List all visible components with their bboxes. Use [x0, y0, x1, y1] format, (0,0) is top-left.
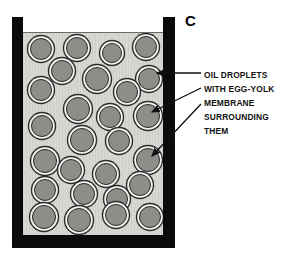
droplet-core	[33, 117, 51, 135]
beaker-wall-right	[163, 17, 175, 248]
oil-droplet	[136, 104, 160, 128]
panel-letter: C	[185, 12, 196, 29]
oil-droplet	[60, 159, 82, 181]
droplet-core	[53, 62, 71, 80]
figure-panel-c: C OIL DROPLETS WITH EGG-YOLK MEMBRANE SU…	[0, 0, 293, 262]
droplet-core	[138, 106, 158, 126]
oil-droplet	[66, 97, 90, 121]
emulsion-interior	[23, 33, 163, 235]
beaker-wall-bottom	[12, 234, 175, 248]
droplet-core	[69, 210, 89, 230]
droplet-core	[137, 38, 155, 56]
caption-block: OIL DROPLETS WITH EGG-YOLK MEMBRANE SURR…	[204, 68, 293, 138]
oil-droplet	[99, 106, 121, 128]
droplet-core	[32, 40, 50, 58]
droplet-core	[140, 70, 158, 88]
oil-droplet	[139, 206, 161, 228]
oil-droplet	[73, 183, 95, 205]
oil-droplet	[34, 179, 56, 201]
oil-droplet	[95, 163, 117, 185]
caption-line-2: WITH EGG-YOLK	[204, 82, 293, 96]
oil-droplet	[66, 37, 88, 59]
droplet-core	[72, 130, 92, 150]
oil-droplet	[135, 36, 157, 58]
oil-droplet	[31, 115, 53, 137]
droplet-core	[68, 99, 88, 119]
oil-droplet	[105, 204, 127, 226]
caption-line-1: OIL DROPLETS	[204, 68, 293, 82]
droplet-core	[68, 39, 86, 57]
oil-droplet	[102, 43, 122, 63]
caption-line-5: THEM	[204, 124, 293, 138]
oil-droplet	[67, 208, 91, 232]
oil-droplet	[85, 67, 109, 91]
oil-droplet	[30, 38, 52, 60]
oil-droplet	[51, 60, 73, 82]
beaker-wall-left	[12, 17, 23, 248]
droplet-core	[138, 150, 158, 170]
caption-line-4: SURROUNDING	[204, 110, 293, 124]
droplet-core	[35, 151, 55, 171]
oil-droplet	[116, 81, 138, 103]
droplet-core	[101, 108, 119, 126]
oil-droplet	[108, 130, 130, 152]
droplet-core	[107, 206, 125, 224]
oil-droplet	[33, 149, 57, 173]
oil-droplet	[136, 148, 160, 172]
droplet-core	[131, 176, 149, 194]
droplet-core	[62, 161, 80, 179]
droplet-core	[118, 83, 136, 101]
droplet-core	[32, 81, 50, 99]
droplet-core	[87, 69, 107, 89]
caption-line-3: MEMBRANE	[204, 96, 293, 110]
droplet-core	[34, 207, 54, 227]
droplet-core	[75, 185, 93, 203]
droplet-core	[141, 208, 159, 226]
droplet-core	[110, 132, 128, 150]
droplet-core	[36, 181, 54, 199]
oil-droplet	[32, 205, 56, 229]
oil-droplet	[138, 68, 160, 90]
droplet-core	[104, 45, 120, 61]
droplet-core	[97, 165, 115, 183]
oil-droplet	[70, 128, 94, 152]
oil-droplet	[30, 79, 52, 101]
oil-droplet	[129, 174, 151, 196]
